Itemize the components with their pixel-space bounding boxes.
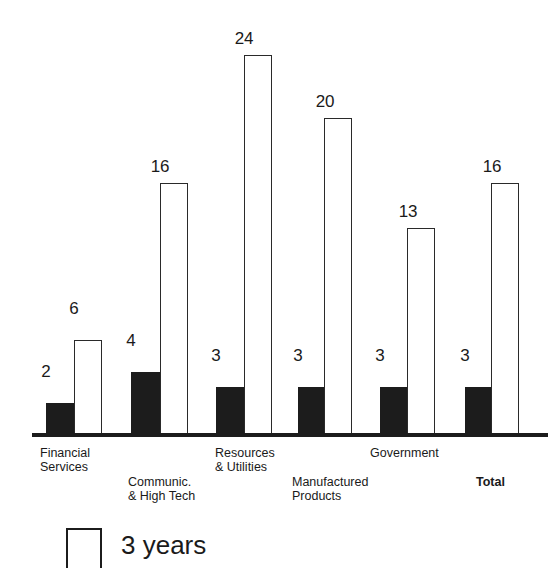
category-label-government: Government: [370, 446, 439, 460]
value-label-dark-5: 3: [451, 347, 479, 364]
value-label-light-4: 13: [393, 203, 423, 220]
x-axis-baseline: [32, 433, 548, 437]
bar-light-4: [407, 228, 435, 435]
legend-label-3-years: 3 years: [121, 528, 206, 562]
bar-light-0: [74, 340, 102, 435]
bar-dark-3: [298, 387, 324, 435]
bar-chart: 2 6 4 16 3 24 3 20 3 13 3 16 Financial S: [0, 0, 557, 571]
chart-legend: 3 years: [66, 528, 206, 571]
bar-light-3: [324, 118, 352, 435]
bar-dark-4: [380, 387, 407, 435]
value-label-light-5: 16: [477, 158, 507, 175]
value-label-dark-0: 2: [32, 363, 60, 380]
value-label-light-1: 16: [145, 158, 175, 175]
value-label-light-3: 20: [310, 93, 340, 110]
bar-dark-2: [216, 387, 244, 435]
plot-area: 2 6 4 16 3 24 3 20 3 13 3 16: [0, 0, 557, 440]
value-label-dark-2: 3: [202, 347, 230, 364]
category-axis-labels: Financial Services Communic. & High Tech…: [0, 446, 557, 506]
bar-light-2: [244, 55, 272, 435]
category-label-communic-high-tech: Communic. & High Tech: [128, 475, 195, 503]
category-label-manufactured-products: Manufactured Products: [292, 475, 368, 503]
value-label-dark-4: 3: [366, 347, 394, 364]
bar-light-1: [160, 183, 188, 435]
value-label-dark-1: 4: [117, 332, 145, 349]
category-label-resources-utilities: Resources & Utilities: [215, 446, 275, 474]
category-label-total: Total: [476, 475, 505, 489]
value-label-dark-3: 3: [284, 347, 312, 364]
value-label-light-2: 24: [229, 30, 259, 47]
value-label-light-0: 6: [60, 300, 88, 317]
legend-swatch-3-years: [66, 528, 102, 568]
bar-dark-0: [46, 403, 74, 435]
bar-light-5: [491, 183, 519, 435]
category-label-financial-services: Financial Services: [40, 446, 90, 474]
bar-dark-1: [131, 372, 160, 435]
bar-dark-5: [465, 387, 491, 435]
